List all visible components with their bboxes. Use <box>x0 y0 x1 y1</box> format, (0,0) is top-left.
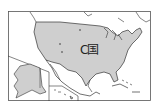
lake <box>59 43 61 45</box>
lake <box>79 29 81 31</box>
country-label: C国 <box>80 40 98 57</box>
lake <box>61 51 63 53</box>
map <box>0 0 156 112</box>
